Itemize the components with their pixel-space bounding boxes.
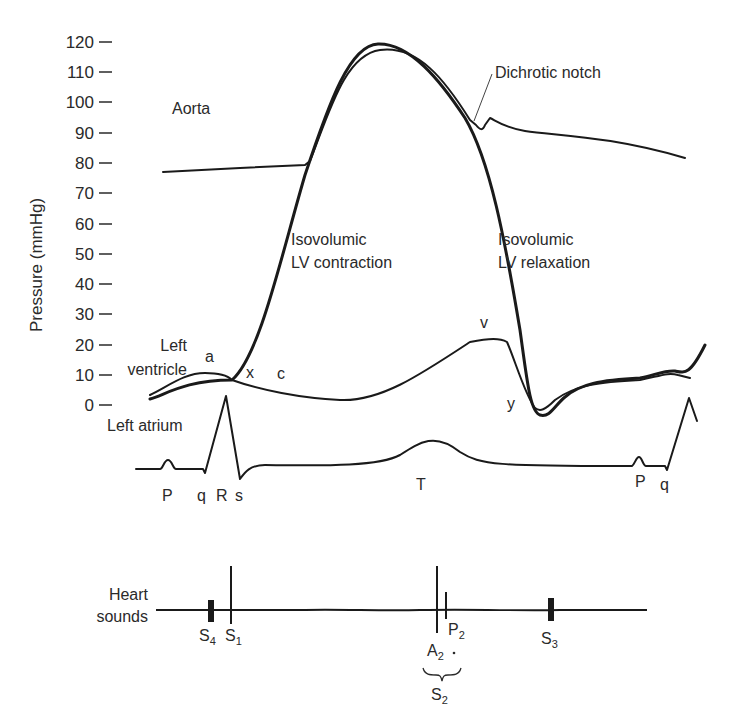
isovolumic-relaxation-label: Isovolumic	[498, 231, 574, 248]
s2-brace	[423, 668, 461, 681]
ecg-trace	[136, 396, 697, 479]
left-atrium-curve	[150, 339, 690, 410]
s3-marker	[548, 598, 554, 621]
tick-label: 90	[75, 124, 94, 143]
heart-sounds-baseline	[156, 610, 647, 611]
aorta-label: Aorta	[172, 100, 210, 117]
s1-label: S1	[225, 627, 242, 647]
x-descent-label: x	[246, 364, 254, 381]
left-ventricle-label: Left	[160, 337, 187, 354]
tick-label: 10	[75, 366, 94, 385]
tick-label: 60	[75, 215, 94, 234]
ecg-s-label: s	[235, 487, 243, 504]
tick-label: 120	[66, 33, 94, 52]
y-axis-label: Pressure (mmHg)	[27, 198, 46, 332]
tick-label: 0	[85, 396, 94, 415]
a2-label: A2	[427, 642, 444, 662]
dichrotic-notch-label: Dichrotic notch	[495, 64, 601, 81]
tick-marks	[99, 42, 112, 405]
a-wave-label: a	[205, 348, 214, 365]
heart-sounds-label: Heart	[109, 586, 149, 603]
ecg-t-label: T	[416, 476, 426, 493]
heart-sounds-track: Heart sounds S4 S1 P2 A2 S2 S3	[96, 566, 647, 706]
isovolumic-contraction-label: Isovolumic	[291, 231, 367, 248]
left-ventricle-label-2: ventricle	[127, 361, 187, 378]
ecg-q2-label: q	[660, 476, 669, 493]
isovolumic-contraction-label-2: LV contraction	[291, 254, 392, 271]
tick-label: 110	[67, 63, 94, 82]
tick-label: 40	[75, 275, 94, 294]
ecg-p-label: P	[162, 487, 173, 504]
isovolumic-relaxation-label-2: LV relaxation	[498, 254, 590, 271]
tick-label: 20	[75, 336, 94, 355]
y-descent-label: y	[507, 395, 515, 412]
tick-label: 80	[75, 154, 94, 173]
s4-label: S4	[199, 627, 216, 647]
left-atrium-label: Left atrium	[107, 417, 183, 434]
tick-label: 50	[75, 245, 94, 264]
tick-label: 30	[75, 305, 94, 324]
heart-sounds-label-2: sounds	[96, 608, 148, 625]
s2-label: S2	[431, 686, 448, 706]
s3-label: S3	[541, 630, 558, 650]
dot	[453, 652, 456, 655]
dichrotic-notch-pointer	[474, 74, 492, 121]
tick-label: 70	[75, 184, 94, 203]
tick-label: 100	[66, 93, 94, 112]
y-axis: 120 110 100 90 80 70 60 50 40 30 20 10 0…	[27, 33, 112, 415]
ecg-q-label: q	[197, 487, 206, 504]
s4-marker	[208, 600, 214, 622]
v-wave-label: v	[480, 314, 488, 331]
left-ventricle-curve	[150, 44, 705, 415]
p2-label: P2	[448, 621, 465, 641]
wiggers-diagram: 120 110 100 90 80 70 60 50 40 30 20 10 0…	[0, 0, 730, 727]
ecg-p2-label: P	[635, 473, 646, 490]
ecg-r-label: R	[216, 487, 228, 504]
c-wave-label: c	[277, 365, 285, 382]
